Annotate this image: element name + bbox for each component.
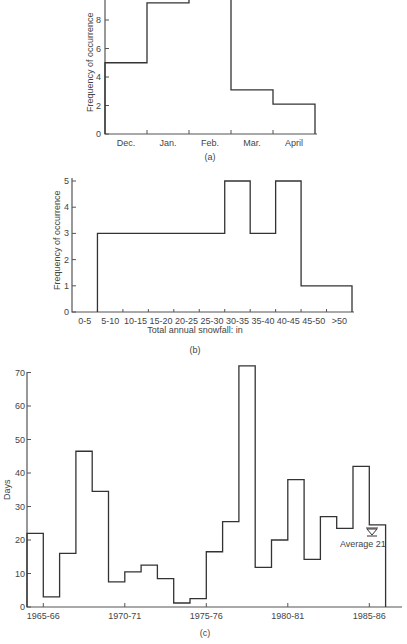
chart-c-ytick: 50	[15, 435, 25, 445]
chart-c-snow-days: 0102030405060701965-661970-711975-761980…	[0, 0, 407, 644]
chart-c-caption: (c)	[200, 628, 211, 638]
chart-c-xtick: 1970-71	[108, 611, 141, 621]
chart-c-ylabel: Days	[2, 479, 12, 500]
chart-c-annotation: Average 21	[340, 539, 386, 549]
chart-c-xtick: 1965-66	[27, 611, 60, 621]
chart-c-xtick: 1975-76	[190, 611, 223, 621]
chart-c-ytick: 20	[15, 535, 25, 545]
chart-c-ytick: 70	[15, 368, 25, 378]
chart-c-axes	[27, 373, 402, 608]
chart-c-ytick: 0	[20, 602, 25, 612]
chart-c-xtick: 1985-86	[353, 611, 386, 621]
average-marker-icon	[367, 529, 377, 535]
chart-c-ytick: 30	[15, 502, 25, 512]
chart-c-xtick: 1980-81	[271, 611, 304, 621]
chart-c-series	[27, 366, 386, 607]
chart-c-ytick: 10	[15, 569, 25, 579]
chart-c-ytick: 40	[15, 468, 25, 478]
chart-c-ytick: 60	[15, 401, 25, 411]
